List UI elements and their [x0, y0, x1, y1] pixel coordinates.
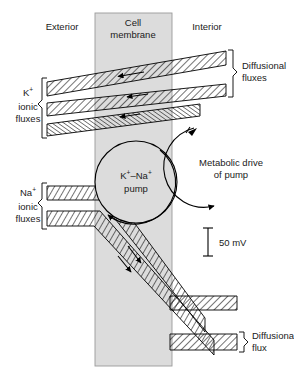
label-scale-value: 50 mV	[219, 237, 247, 248]
label-k-line3: fluxes	[16, 113, 41, 124]
label-interior: Interior	[192, 21, 222, 32]
label-diffusional-bottom-line1: Diffusional	[252, 330, 294, 341]
pump-label-line1: K+–Na+	[120, 169, 152, 181]
metabolic-label-line2: of pump	[214, 169, 248, 180]
label-exterior: Exterior	[46, 21, 79, 32]
pump-label-line2: pump	[124, 183, 148, 194]
brace-k-fluxes	[38, 78, 47, 138]
label-na-line3: fluxes	[16, 213, 41, 224]
label-na-line2: ionic	[18, 201, 38, 212]
scale-bar	[203, 228, 213, 256]
label-k-line2: ionic	[18, 101, 38, 112]
label-cell-membrane-line1: Cell	[125, 17, 141, 28]
flux-band-interior-lower	[170, 334, 237, 350]
flux-band-interior-upper	[170, 296, 237, 310]
brace-diffusional-fluxes-top	[228, 50, 237, 97]
brace-diffusional-flux-bottom	[239, 332, 248, 352]
cell-membrane-diagram: Exterior Cell membrane Interior	[0, 0, 294, 379]
label-diffusional-top-line1: Diffusional	[242, 60, 286, 71]
figure-root: Exterior Cell membrane Interior	[0, 0, 294, 379]
label-k-ion: K+	[23, 86, 33, 98]
label-diffusional-top-line2: fluxes	[242, 72, 267, 83]
label-diffusional-bottom-line2: flux	[252, 342, 267, 353]
metabolic-label-line1: Metabolic drive	[199, 157, 263, 168]
label-na-ion: Na+	[20, 186, 36, 198]
label-cell-membrane-line2: membrane	[110, 29, 155, 40]
